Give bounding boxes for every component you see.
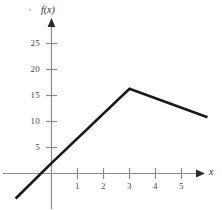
y-axis-arrowhead [48,18,56,27]
chart-plot-area [0,0,222,210]
y-tick-label-5: 5 [20,142,40,152]
x-axis-arrowhead [196,170,205,178]
scan-artifact-speck [29,9,31,11]
y-tick-label-10: 10 [20,116,40,126]
y-tick-label-20: 20 [20,64,40,74]
x-tick-label-1: 1 [69,181,86,191]
x-axis-title: x [209,166,213,177]
x-tick-label-4: 4 [147,181,164,191]
chart-figure: 25 20 15 10 5 1 2 3 4 5 f(x) x [0,0,222,210]
y-tick-label-15: 15 [20,90,40,100]
x-tick-label-5: 5 [173,181,190,191]
x-tick-label-3: 3 [121,181,138,191]
x-tick-label-2: 2 [95,181,112,191]
y-axis-title: f(x) [41,4,55,15]
y-tick-label-25: 25 [20,38,40,48]
